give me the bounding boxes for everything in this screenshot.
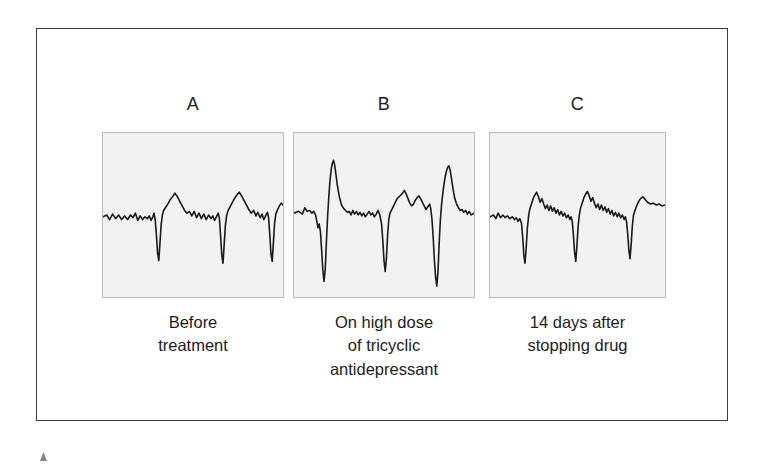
caption-line: 14 days after	[475, 311, 680, 334]
ecg-panel-row: A Before treatment B On high dose of tri…	[37, 29, 727, 420]
panel-caption-a: Before treatment	[88, 311, 298, 358]
ecg-trace-baseline-svg	[103, 133, 283, 297]
cropped-caption-marker-icon	[40, 452, 47, 461]
caption-line: of tricyclic	[279, 334, 489, 357]
ecg-strip-c	[489, 132, 666, 298]
panel-label-b: B	[293, 95, 475, 113]
caption-line: antidepressant	[279, 358, 489, 381]
panel-caption-b: On high dose of tricyclic antidepressant	[279, 311, 489, 381]
panel-label-c: C	[489, 95, 666, 113]
ecg-strip-b	[293, 132, 475, 298]
ecg-strip-a	[102, 132, 284, 298]
caption-line: treatment	[88, 334, 298, 357]
ecg-panel-c: C 14 days after stopping drug	[489, 29, 666, 420]
caption-line: Before	[88, 311, 298, 334]
caption-line: On high dose	[279, 311, 489, 334]
ecg-panel-b: B On high dose of tricyclic antidepressa…	[293, 29, 475, 420]
ecg-trace-baseline	[103, 192, 283, 263]
ecg-trace-recovery	[490, 191, 665, 263]
ecg-panel-a: A Before treatment	[102, 29, 284, 420]
ecg-trace-toxicity-svg	[294, 133, 474, 297]
ecg-trace-recovery-svg	[490, 133, 665, 297]
caption-line: stopping drug	[475, 334, 680, 357]
figure-frame: A Before treatment B On high dose of tri…	[36, 28, 728, 421]
panel-label-a: A	[102, 95, 284, 113]
ecg-trace-toxicity	[294, 160, 474, 286]
panel-caption-c: 14 days after stopping drug	[475, 311, 680, 358]
